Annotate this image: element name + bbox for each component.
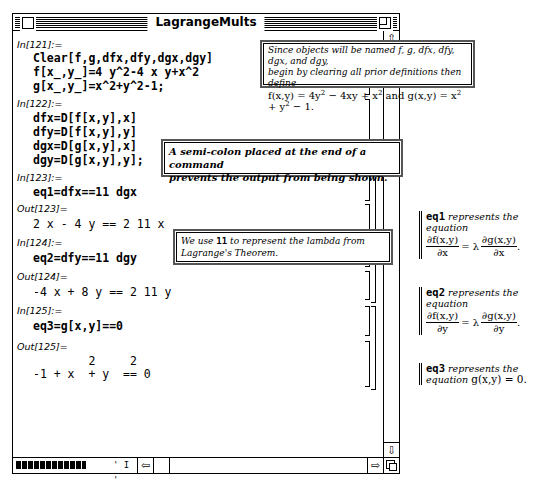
cell-bracket[interactable] <box>365 306 370 336</box>
cell-label: In[125]:= <box>17 305 63 316</box>
cell-label: Out[123]= <box>17 203 68 214</box>
callout-text: begin by clearing all prior definitions … <box>268 67 467 89</box>
horizontal-scroll-thumb[interactable] <box>154 458 170 473</box>
window-title: LagrangeMults <box>147 14 264 31</box>
magnify-bar <box>16 461 86 469</box>
horizontal-scrollbar[interactable]: ' I ' ⇦ ⇨ <box>13 457 383 473</box>
callout-text: A semi-colon placed at the end of a comm… <box>169 145 395 171</box>
magnify-ticks: ' I ' <box>113 458 137 486</box>
output-line: 2 x - 4 y == 2 11 x <box>33 217 165 231</box>
input-line[interactable]: dfy=D[f[x,y],y] <box>33 125 137 139</box>
input-line[interactable]: f[x_,y_]=4 y^2-4 x y+x^2 <box>33 65 199 79</box>
cell-bracket[interactable] <box>365 204 370 233</box>
note-eq3: eq3 represents the equation g(x,y) = 0. <box>419 363 548 385</box>
cell-bracket[interactable] <box>365 271 370 300</box>
callout-lambda: We use 11 to represent the lambda from L… <box>176 232 390 262</box>
callout-text: Lagrange's Theorem. <box>181 247 385 259</box>
scroll-left-arrow-icon[interactable]: ⇦ <box>138 458 154 473</box>
callout-text: prevents the output from being shown. <box>169 171 395 184</box>
input-line[interactable]: eq1=dfx==11 dgx <box>33 185 137 199</box>
zoom-box[interactable] <box>379 17 391 29</box>
output-line: 2 2 <box>33 354 137 368</box>
equation-eq1: ∂f(x,y)∂x = λ ∂g(x,y)∂x . <box>426 234 548 259</box>
title-bar[interactable]: LagrangeMults <box>13 14 399 31</box>
note-eq1: eq1 represents the equation ∂f(x,y)∂x = … <box>419 211 548 259</box>
input-line[interactable]: g[x_,y_]=x^2+y^2-1; <box>33 79 165 93</box>
output-line: -1 + x + y == 0 <box>33 367 151 381</box>
callout-formula: f(x,y) = 4y2 − 4xy + x2 and g(x,y) = x2 … <box>268 90 467 112</box>
callout-semicolon: A semi-colon placed at the end of a comm… <box>164 142 400 174</box>
cell-bracket[interactable] <box>365 341 370 387</box>
cell-label: Out[125]= <box>17 341 68 352</box>
cell-label: In[121]:= <box>17 39 63 50</box>
callout-text: Since objects will be named f, g, dfx, d… <box>268 45 467 67</box>
input-line[interactable]: eq3=g[x,y]==0 <box>33 319 123 333</box>
horizontal-scroll-track[interactable] <box>170 458 367 473</box>
group-bracket[interactable] <box>371 306 376 390</box>
cell-label: In[124]:= <box>17 237 63 248</box>
input-line[interactable]: Clear[f,g,dfx,dfy,dgx,dgy] <box>33 51 213 65</box>
resize-grow-icon[interactable] <box>383 457 399 473</box>
input-line[interactable]: dgx=D[g[x,y],x] <box>33 139 137 153</box>
equation-eq2: ∂f(x,y)∂y = λ ∂g(x,y)∂y . <box>426 310 548 335</box>
input-line[interactable]: dfx=D[f[x,y],x] <box>33 111 137 125</box>
scroll-down-arrow-icon[interactable]: ⇩ <box>384 442 399 458</box>
close-box[interactable] <box>22 17 34 29</box>
magnification-control[interactable]: ' I ' <box>13 458 138 473</box>
callout-clear-definitions: Since objects will be named f, g, dfx, d… <box>263 43 472 85</box>
note-eq2: eq2 represents the equation ∂f(x,y)∂y = … <box>419 287 548 335</box>
magnify-bar-dotted <box>86 461 110 469</box>
input-line[interactable]: eq2=dfy==11 dgy <box>33 251 137 265</box>
input-line[interactable]: dgy=D[g[x,y],y]; <box>33 153 144 167</box>
callout-text: We use 11 to represent the lambda from <box>181 235 385 247</box>
output-line: -4 x + 8 y == 2 11 y <box>33 285 171 299</box>
cell-label: In[122]:= <box>17 98 63 109</box>
scroll-right-arrow-icon[interactable]: ⇨ <box>367 458 383 473</box>
cell-label: In[123]:= <box>17 172 63 183</box>
cell-label: Out[124]= <box>17 271 68 282</box>
